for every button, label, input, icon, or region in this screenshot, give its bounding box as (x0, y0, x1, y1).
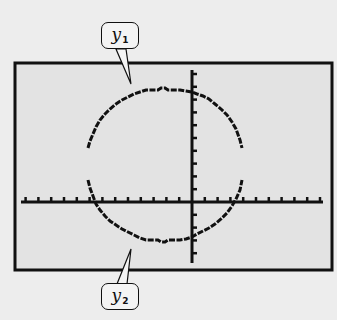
y1-label-callout: y1 (101, 22, 139, 49)
y2-label-main: y (112, 285, 122, 305)
y1-label-subscript: 1 (122, 35, 128, 45)
y2-label-subscript: 2 (122, 296, 128, 306)
calculator-graph (0, 0, 337, 320)
y2-label-callout: y2 (101, 283, 139, 310)
y1-label-main: y (112, 24, 122, 44)
